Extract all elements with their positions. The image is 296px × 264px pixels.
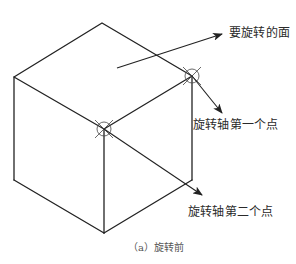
axis-point-1-label: 旋转轴第一个点 — [193, 118, 278, 132]
figure-caption: （a）旋转前 — [128, 242, 184, 254]
left-bottom-edge — [14, 180, 104, 233]
axis-point-1-arrow — [192, 76, 222, 113]
face-to-rotate-label: 要旋转的面 — [229, 26, 290, 40]
axis-point-2-label: 旋转轴第二个点 — [188, 205, 273, 219]
right-bottom-edge — [104, 180, 192, 233]
top-face — [14, 23, 192, 129]
axis-point-2-arrow — [104, 129, 202, 195]
